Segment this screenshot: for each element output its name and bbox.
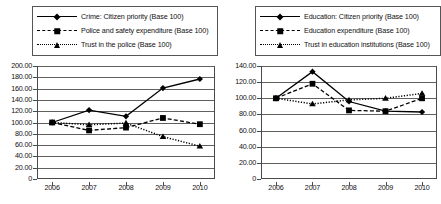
series-data-point [123, 120, 130, 126]
y-axis-tick-label: 60.00 [239, 127, 256, 134]
series-data-point [419, 90, 426, 96]
legend-item: Crime: Citizen priority (Base 100) [37, 10, 212, 24]
crime-chart-legend: Crime: Citizen priority (Base 100) Polic… [32, 6, 218, 56]
y-axis-labels: 020.0040.0060.0080.00100.00120.00140.001… [0, 66, 35, 179]
y-axis-tick-label: 80.00 [15, 130, 32, 137]
y-axis-tick-label: 180.00 [11, 74, 32, 81]
legend-key-dashed-square-icon [260, 25, 300, 37]
education-chart-plot: 020.0040.0060.0080.00100.00120.00140.00 … [221, 62, 441, 204]
x-axis-labels: 20062007200820092010 [37, 182, 215, 198]
legend-item-label: Crime: Citizen priority (Base 100) [81, 13, 183, 21]
legend-item: Trust in the police (Base 100) [37, 38, 212, 52]
x-axis-tick-mark [276, 182, 277, 186]
education-chart-panel: Education: Citizen priority (Base 100) E… [221, 0, 441, 204]
x-axis-tick-mark [312, 182, 313, 186]
legend-item-label: Education expenditure (Base 100) [304, 27, 409, 35]
legend-key-dotted-triangle-icon [37, 39, 77, 51]
series-data-point [419, 109, 425, 115]
y-axis-tick-label: 120.00 [235, 79, 256, 86]
legend-key-dashed-square-icon [37, 25, 77, 37]
y-axis-tick-label: 100.00 [11, 119, 32, 126]
y-axis-tick-label: 160.00 [11, 85, 32, 92]
legend-item: Education: Citizen priority (Base 100) [260, 10, 435, 24]
y-axis-tick-label: 120.00 [11, 108, 32, 115]
legend-item-label: Trust in education institutions (Base 10… [304, 41, 430, 49]
series-data-point [123, 125, 129, 131]
series-layer [37, 66, 215, 179]
y-axis-tick-label: 140.00 [11, 96, 32, 103]
x-axis-tick-mark [200, 182, 201, 186]
x-axis-tick-mark [52, 182, 53, 186]
series-data-point [86, 128, 92, 134]
series-data-point [160, 115, 166, 121]
legend-item-label: Police and safety expenditure (Base 100) [81, 27, 208, 35]
legend-item-label: Education: Citizen priority (Base 100) [304, 13, 419, 21]
x-axis-tick-mark [163, 182, 164, 186]
y-axis-tick-label: 200.00 [11, 62, 32, 69]
legend-key-dotted-triangle-icon [260, 39, 300, 51]
y-axis-tick-label: 40.00 [15, 153, 32, 160]
legend-item: Education expenditure (Base 100) [260, 24, 435, 38]
y-axis-tick-label: 40.00 [239, 143, 256, 150]
series-data-point [346, 107, 352, 113]
series-data-point [86, 107, 92, 113]
series-data-point [197, 121, 203, 127]
y-axis-tick-label: 80.00 [239, 111, 256, 118]
y-axis-tick-mark [33, 179, 37, 180]
y-axis-tick-mark [257, 179, 261, 180]
series-data-point [160, 133, 167, 139]
y-axis-tick-label: 20.00 [239, 159, 256, 166]
x-axis-tick-mark [89, 182, 90, 186]
dual-line-chart-figure: Crime: Citizen priority (Base 100) Polic… [0, 0, 441, 204]
x-axis-labels: 20062007200820092010 [261, 182, 437, 198]
series-data-point [197, 76, 203, 82]
x-axis-tick-mark [422, 182, 423, 186]
education-chart-legend: Education: Citizen priority (Base 100) E… [255, 6, 441, 56]
crime-chart-panel: Crime: Citizen priority (Base 100) Polic… [0, 0, 220, 204]
y-axis-tick-label: 0 [252, 175, 256, 182]
legend-item-label: Trust in the police (Base 100) [81, 41, 172, 49]
series-data-point [383, 108, 389, 114]
y-axis-tick-label: 60.00 [15, 141, 32, 148]
legend-item: Trust in education institutions (Base 10… [260, 38, 435, 52]
x-axis-tick-mark [386, 182, 387, 186]
legend-key-solid-diamond-icon [37, 11, 77, 23]
series-data-point [310, 81, 316, 87]
legend-key-solid-diamond-icon [260, 11, 300, 23]
series-layer [261, 66, 437, 179]
y-axis-labels: 020.0040.0060.0080.00100.00120.00140.00 [221, 66, 259, 179]
y-axis-tick-label: 20.00 [15, 164, 32, 171]
x-axis-tick-mark [349, 182, 350, 186]
crime-chart-plot: 020.0040.0060.0080.00100.00120.00140.001… [0, 62, 220, 204]
y-axis-tick-label: 0 [28, 175, 32, 182]
x-axis-tick-mark [126, 182, 127, 186]
y-axis-tick-label: 100.00 [235, 95, 256, 102]
y-axis-tick-label: 140.00 [235, 62, 256, 69]
series-data-point [419, 95, 425, 101]
legend-item: Police and safety expenditure (Base 100) [37, 24, 212, 38]
